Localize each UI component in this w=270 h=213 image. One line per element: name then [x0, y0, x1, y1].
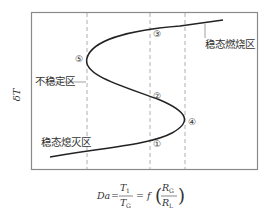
formula-arg-den-sub: L [169, 202, 173, 209]
damkohler-formula: Da = T 1 T G = f ( R G R L ) [96, 182, 185, 209]
svg-text:(: ( [155, 185, 162, 206]
formula-lhs: Da [96, 190, 111, 201]
formula-eq: = [111, 190, 119, 201]
formula-eq2: = f [136, 190, 152, 201]
point-1: ① [153, 139, 161, 149]
s-curve-diagram: δT 稳态燃烧区 不稳定区 稳态熄灭区 ① ② ③ ④ ⑤ Da = T 1 T… [0, 0, 270, 213]
formula-num-sub: 1 [126, 187, 130, 194]
label-unstable: 不稳定区 [35, 75, 75, 87]
label-steady-extinction: 稳态熄灭区 [41, 136, 91, 148]
point-4: ④ [188, 117, 196, 127]
point-5: ⑤ [75, 54, 83, 64]
formula-arg-num: R [161, 182, 169, 193]
y-axis-label: δT [11, 87, 22, 101]
svg-text:): ) [178, 185, 185, 206]
formula-arg-num-sub: G [169, 187, 174, 194]
point-3: ③ [153, 29, 161, 39]
point-2: ② [153, 91, 161, 101]
label-steady-burning: 稳态燃烧区 [205, 38, 255, 50]
formula-den-sub: G [126, 202, 131, 209]
formula-arg-den: R [161, 197, 169, 208]
